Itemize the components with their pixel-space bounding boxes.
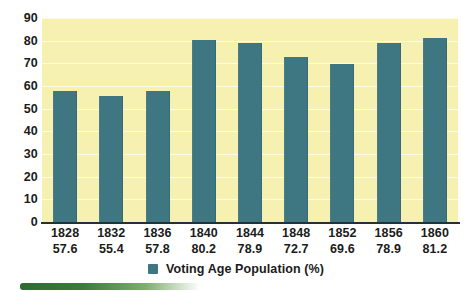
data-value-label: 78.9 bbox=[366, 241, 412, 257]
x-axis-group: 183657.8 bbox=[134, 226, 180, 257]
y-tick-label: 0 bbox=[8, 216, 38, 228]
bar-1844[interactable] bbox=[238, 43, 262, 222]
data-value-label: 78.9 bbox=[227, 241, 273, 257]
bar-1848[interactable] bbox=[284, 57, 308, 222]
bar-1836[interactable] bbox=[146, 91, 170, 222]
bar-slot bbox=[181, 18, 227, 222]
bar-slot bbox=[366, 18, 412, 222]
y-tick-label: 50 bbox=[8, 103, 38, 115]
x-tick-label: 1832 bbox=[88, 226, 134, 241]
x-axis-group: 185269.6 bbox=[319, 226, 365, 257]
bar-1828[interactable] bbox=[53, 91, 77, 222]
x-tick-label: 1860 bbox=[412, 226, 458, 241]
x-axis-group: 182857.6 bbox=[42, 226, 88, 257]
data-value-label: 57.6 bbox=[42, 241, 88, 257]
bar-slot bbox=[412, 18, 458, 222]
x-axis-group: 183255.4 bbox=[88, 226, 134, 257]
x-axis-group: 186081.2 bbox=[412, 226, 458, 257]
x-tick-label: 1840 bbox=[181, 226, 227, 241]
y-axis: 9080706050403020100 bbox=[8, 16, 38, 224]
y-tick-label: 70 bbox=[8, 57, 38, 69]
x-tick-label: 1828 bbox=[42, 226, 88, 241]
bar-slot bbox=[42, 18, 88, 222]
bar-slot bbox=[134, 18, 180, 222]
y-tick-label: 90 bbox=[8, 12, 38, 24]
x-axis: 182857.6183255.4183657.8184080.2184478.9… bbox=[42, 226, 458, 262]
bottom-accent-bar bbox=[20, 283, 200, 290]
data-value-label: 57.8 bbox=[134, 241, 180, 257]
bar-1860[interactable] bbox=[423, 38, 447, 222]
x-axis-group: 184478.9 bbox=[227, 226, 273, 257]
bar-1840[interactable] bbox=[192, 40, 216, 222]
legend-color-swatch bbox=[148, 264, 158, 274]
chart-legend: Voting Age Population (%) bbox=[0, 262, 472, 276]
bars-container bbox=[42, 18, 458, 222]
bar-chart: 9080706050403020100 182857.6183255.41836… bbox=[0, 0, 472, 292]
bar-slot bbox=[88, 18, 134, 222]
data-value-label: 69.6 bbox=[319, 241, 365, 257]
bar-1852[interactable] bbox=[330, 64, 354, 222]
y-tick-label: 30 bbox=[8, 148, 38, 160]
y-tick-label: 80 bbox=[8, 35, 38, 47]
x-axis-group: 185678.9 bbox=[366, 226, 412, 257]
bar-slot bbox=[227, 18, 273, 222]
y-tick-label: 60 bbox=[8, 80, 38, 92]
bar-1856[interactable] bbox=[377, 43, 401, 222]
x-tick-label: 1836 bbox=[134, 226, 180, 241]
x-axis-line bbox=[41, 222, 460, 224]
y-tick-label: 10 bbox=[8, 193, 38, 205]
x-tick-label: 1848 bbox=[273, 226, 319, 241]
data-value-label: 80.2 bbox=[181, 241, 227, 257]
bar-slot bbox=[319, 18, 365, 222]
x-tick-label: 1856 bbox=[366, 226, 412, 241]
x-axis-group: 184080.2 bbox=[181, 226, 227, 257]
y-tick-label: 40 bbox=[8, 125, 38, 137]
data-value-label: 72.7 bbox=[273, 241, 319, 257]
bar-1832[interactable] bbox=[99, 96, 123, 222]
y-tick-label: 20 bbox=[8, 171, 38, 183]
legend-label: Voting Age Population (%) bbox=[166, 262, 324, 276]
x-axis-group: 184872.7 bbox=[273, 226, 319, 257]
x-tick-label: 1852 bbox=[319, 226, 365, 241]
x-tick-label: 1844 bbox=[227, 226, 273, 241]
data-value-label: 81.2 bbox=[412, 241, 458, 257]
data-value-label: 55.4 bbox=[88, 241, 134, 257]
bar-slot bbox=[273, 18, 319, 222]
